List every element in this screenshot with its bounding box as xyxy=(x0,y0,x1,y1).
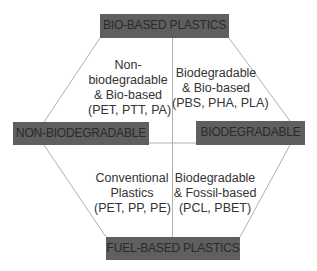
quadrant-bottom-right-line-2: & Fossil-based xyxy=(172,186,258,201)
quadrant-bottom-left: Conventional Plastics (PET, PP, PE) xyxy=(94,171,170,216)
biodegradable-label: BIODEGRADABLE xyxy=(200,125,300,139)
quadrant-bottom-left-line-3: (PET, PP, PE) xyxy=(94,201,170,216)
quadrant-bottom-right-line-1: Biodegradable xyxy=(172,171,258,186)
quadrant-top-right-line-1: Biodegradable xyxy=(172,66,260,81)
quadrant-top-left-line-2: biodegradable xyxy=(88,73,168,88)
quadrant-bottom-left-line-1: Conventional xyxy=(94,171,170,186)
quadrant-top-left-line-4: (PET, PTT, PA) xyxy=(88,103,168,118)
quadrant-top-right-line-3: (PBS, PHA, PLA) xyxy=(172,96,260,111)
quadrant-top-left-line-1: Non- xyxy=(88,58,168,73)
quadrant-bottom-right: Biodegradable & Fossil-based (PCL, PBET) xyxy=(172,171,258,216)
quadrant-top-left: Non- biodegradable & Bio-based (PET, PTT… xyxy=(88,58,168,118)
quadrant-bottom-left-line-2: Plastics xyxy=(94,186,170,201)
non-biodegradable-label: NON-BIODEGRADABLE xyxy=(16,126,146,140)
biodegradable-box: BIODEGRADABLE xyxy=(196,121,305,145)
quadrant-bottom-right-line-3: (PCL, PBET) xyxy=(172,201,258,216)
quadrant-top-left-line-3: & Bio-based xyxy=(88,88,168,103)
non-biodegradable-box: NON-BIODEGRADABLE xyxy=(13,122,149,145)
bio-based-plastics-label: BIO-BASED PLASTICS xyxy=(103,18,226,32)
fuel-based-plastics-box: FUEL-BASED PLASTICS xyxy=(106,237,240,260)
bio-based-plastics-box: BIO-BASED PLASTICS xyxy=(100,14,229,38)
quadrant-top-right: Biodegradable & Bio-based (PBS, PHA, PLA… xyxy=(172,66,260,111)
quadrant-top-right-line-2: & Bio-based xyxy=(172,81,260,96)
fuel-based-plastics-label: FUEL-BASED PLASTICS xyxy=(107,241,240,255)
